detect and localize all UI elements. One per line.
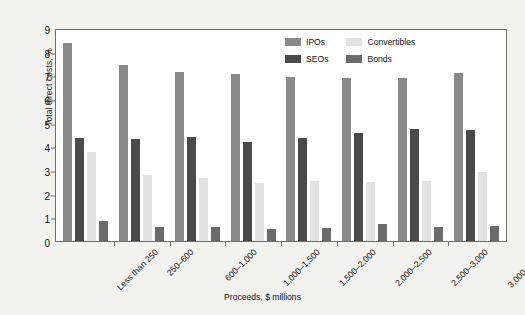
bar-seos (466, 130, 475, 241)
bar-bonds (211, 227, 220, 241)
bar-convertibles (310, 181, 319, 241)
bar-bonds (267, 229, 276, 241)
x-tick-label: 1,000–1,500 (281, 247, 322, 288)
legend-swatch-icon (285, 38, 301, 46)
x-tick-label: 2,000–2,500 (393, 247, 434, 288)
legend-item: SEOs (285, 54, 328, 64)
bar-seos (75, 138, 84, 241)
bar-ipos (63, 43, 72, 241)
bar-convertibles (422, 181, 431, 241)
x-tick-label: 600–1,000 (223, 247, 259, 283)
bar-ipos (398, 78, 407, 241)
bar-seos (354, 133, 363, 241)
legend-label: SEOs (306, 54, 328, 64)
x-tick-label: Less than 250 (115, 247, 160, 292)
bar-group (448, 30, 504, 241)
bar-seos (187, 137, 196, 241)
bar-bonds (378, 224, 387, 241)
bar-seos (298, 138, 307, 241)
legend-item: IPOs (285, 37, 328, 47)
bar-seos (243, 142, 252, 241)
x-axis-title: Proceeds, $ millions (0, 292, 525, 302)
bar-ipos (231, 74, 240, 241)
bar-bonds (99, 221, 108, 241)
legend-swatch-icon (285, 55, 301, 63)
x-tick-label: 250–600 (165, 247, 196, 278)
bar-bonds (434, 227, 443, 241)
bar-ipos (175, 72, 184, 241)
bar-convertibles (143, 175, 152, 241)
bar-groups (56, 30, 506, 241)
bar-ipos (454, 73, 463, 241)
legend-item: Convertibles (346, 37, 415, 47)
legend-label: IPOs (306, 37, 325, 47)
bar-bonds (322, 228, 331, 241)
bar-ipos (286, 77, 295, 241)
y-axis-title: Total direct costs, % (44, 17, 54, 157)
chart-page: Total direct costs, % 0123456789 Less th… (0, 0, 525, 315)
bar-bonds (155, 227, 164, 241)
bar-group (58, 30, 114, 241)
bar-seos (410, 129, 419, 241)
bar-group (114, 30, 170, 241)
legend-item: Bonds (346, 54, 415, 64)
bar-convertibles (478, 172, 487, 241)
x-axis-labels: Less than 250250–600600–1,0001,000–1,500… (55, 245, 507, 297)
bar-ipos (119, 65, 128, 241)
x-tick-label: 1,500–2,000 (337, 247, 378, 288)
bar-group (170, 30, 226, 241)
legend-label: Bonds (367, 54, 391, 64)
y-tick-label: 9 (30, 25, 56, 36)
y-tick-label: 0 (30, 238, 56, 249)
bar-bonds (490, 226, 499, 241)
legend-swatch-icon (346, 55, 362, 63)
bar-seos (131, 139, 140, 241)
chart-legend: IPOsConvertiblesSEOsBonds (285, 33, 415, 67)
bar-convertibles (366, 182, 375, 241)
bar-convertibles (255, 183, 264, 241)
x-tick-label: 2,500–3,000 (449, 247, 490, 288)
legend-swatch-icon (346, 38, 362, 46)
bar-convertibles (87, 152, 96, 241)
x-tick-label: 3,000 and up (506, 247, 525, 290)
legend-label: Convertibles (367, 37, 415, 47)
bar-convertibles (199, 178, 208, 241)
bar-group (225, 30, 281, 241)
plot-area: Total direct costs, % 0123456789 (55, 29, 507, 242)
bar-ipos (342, 78, 351, 241)
